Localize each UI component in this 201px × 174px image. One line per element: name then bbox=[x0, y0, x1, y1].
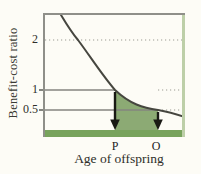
y-tick-label-2: 2 bbox=[22, 33, 38, 46]
y-tick-label-0-5: 0.5 bbox=[12, 103, 38, 116]
benefit-cost-figure: Benefit-cost ratio 2 1 0.5 P O Age of o bbox=[0, 0, 201, 174]
x-axis-label: Age of offspring bbox=[44, 151, 194, 167]
plot-right-border bbox=[182, 15, 185, 137]
plot-canvas bbox=[45, 15, 185, 137]
plot-area bbox=[43, 13, 185, 137]
y-tick-label-1: 1 bbox=[22, 83, 38, 96]
